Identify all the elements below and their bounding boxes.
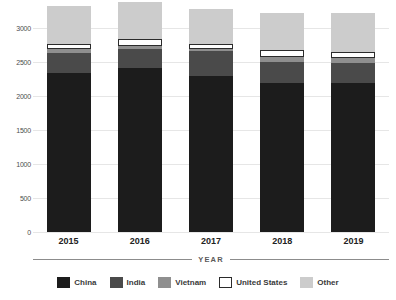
bar-segment-other[interactable] (118, 2, 162, 39)
legend-label: India (127, 278, 146, 287)
bar-stack (260, 13, 304, 232)
gridline (33, 232, 389, 233)
bar-stack (189, 9, 233, 232)
y-axis-tick-label: 1500 (3, 127, 31, 134)
bar-segment-other[interactable] (189, 9, 233, 44)
bar-segment-united-states[interactable] (118, 39, 162, 46)
legend-item-other[interactable]: Other (300, 277, 338, 288)
y-axis-tick-label: 3000 (3, 25, 31, 32)
legend-swatch-icon (300, 277, 313, 288)
y-axis-tick-label: 0 (3, 229, 31, 236)
legend-swatch-icon (57, 277, 70, 288)
bar-segment-china[interactable] (118, 68, 162, 232)
bar-segment-india[interactable] (189, 51, 233, 75)
legend-item-india[interactable]: India (110, 277, 146, 288)
bar-stack (47, 6, 91, 232)
x-axis-tick-label-2018: 2018 (260, 236, 304, 246)
axis-rule-right (230, 259, 389, 260)
y-axis-tick-label: 2500 (3, 59, 31, 66)
legend-swatch-icon (219, 277, 232, 288)
bar-stack (331, 13, 375, 232)
bars-layer (33, 8, 389, 232)
legend-swatch-icon (158, 277, 171, 288)
legend-label: United States (236, 278, 287, 287)
legend-item-china[interactable]: China (57, 277, 96, 288)
legend-item-vietnam[interactable]: Vietnam (158, 277, 206, 288)
x-axis-tick-label-2019: 2019 (331, 236, 375, 246)
bar-segment-china[interactable] (260, 83, 304, 232)
bar-segment-china[interactable] (331, 83, 375, 232)
y-axis-tick-label: 500 (3, 195, 31, 202)
bar-segment-other[interactable] (260, 13, 304, 50)
bar-segment-india[interactable] (118, 49, 162, 69)
x-axis-tick-label-2017: 2017 (189, 236, 233, 246)
bar-segment-india[interactable] (331, 63, 375, 83)
x-axis-tick-label-2016: 2016 (118, 236, 162, 246)
legend-swatch-icon (110, 277, 123, 288)
y-axis-tick-label: 2000 (3, 93, 31, 100)
x-axis-tick-label-2015: 2015 (47, 236, 91, 246)
bar-segment-china[interactable] (189, 76, 233, 232)
bar-segment-china[interactable] (47, 73, 91, 232)
bar-segment-india[interactable] (260, 62, 304, 83)
axis-rule-left (33, 259, 192, 260)
y-axis-tick-label: 1000 (3, 161, 31, 168)
legend-item-united-states[interactable]: United States (219, 277, 287, 288)
x-axis-title-row: YEAR (33, 253, 389, 265)
chart-legend: ChinaIndiaVietnamUnited StatesOther (0, 272, 396, 292)
legend-label: China (74, 278, 96, 287)
y-axis: 050010001500200025003000 (0, 8, 31, 232)
legend-label: Other (317, 278, 338, 287)
bar-stack (118, 2, 162, 232)
x-axis: 20152016201720182019 (33, 236, 389, 250)
bar-segment-united-states[interactable] (260, 50, 304, 57)
bar-segment-other[interactable] (331, 13, 375, 51)
stacked-bar-chart: 050010001500200025003000 201520162017201… (0, 0, 396, 300)
legend-label: Vietnam (175, 278, 206, 287)
x-axis-title: YEAR (198, 255, 224, 264)
bar-segment-other[interactable] (47, 6, 91, 44)
bar-segment-india[interactable] (47, 53, 91, 73)
